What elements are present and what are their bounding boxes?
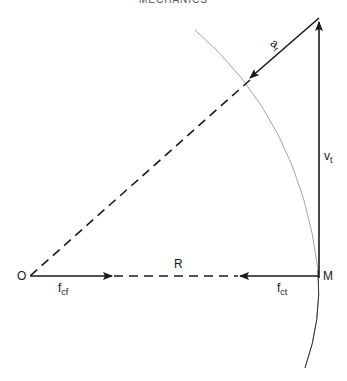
diagram-page: MECHANICS ar vt O M R fcf fct <box>0 0 347 381</box>
fct-sub: ct <box>280 287 287 297</box>
vector-diagram <box>0 0 347 381</box>
label-fcf: fcf <box>58 282 68 297</box>
fcf-sub: cf <box>61 287 68 297</box>
label-vt: vt <box>324 150 333 165</box>
radius-dashed-line <box>30 80 250 276</box>
label-R: R <box>174 258 183 270</box>
ar-vector <box>250 18 319 78</box>
label-O: O <box>17 270 26 282</box>
circular-path-arc <box>195 30 319 368</box>
circular-path-arc-lower <box>305 270 319 368</box>
vt-sub: t <box>330 155 333 165</box>
label-fct: fct <box>277 282 287 297</box>
label-M: M <box>323 270 333 282</box>
